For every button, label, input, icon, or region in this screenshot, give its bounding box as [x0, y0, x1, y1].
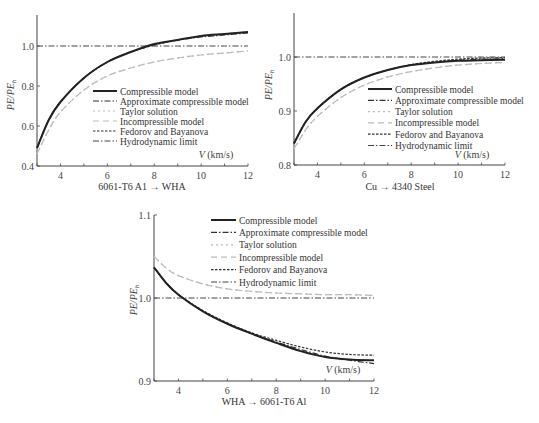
y-tick-label: 1.0	[139, 293, 152, 304]
legend-label: Fedorov and Bayanova	[120, 127, 209, 137]
x-tick-label: 12	[369, 385, 379, 396]
x-tick-label: 10	[453, 169, 463, 180]
legend: Compressible modelApproximate compressib…	[211, 216, 368, 288]
legend-label: Compressible model	[395, 85, 474, 95]
legend-label: Incompressible model	[120, 117, 205, 127]
legend: Compressible modelApproximate compressib…	[368, 85, 524, 152]
chart-panel-3: 46810120.91.01.1PE/PEhV (km/s)WHA → 6061…	[128, 210, 379, 408]
y-axis-label: PE/PEh	[5, 79, 18, 111]
y-tick-label: 0.9	[139, 376, 152, 387]
legend-label: Approximate compressible model	[120, 97, 249, 107]
legend: Compressible modelApproximate compressib…	[93, 87, 249, 147]
legend-label: Incompressible model	[395, 118, 480, 128]
y-tick-label: 0.9	[279, 106, 292, 117]
x-axis-label: V (km/s)	[199, 149, 234, 161]
legend-label: Taylor solution	[395, 107, 453, 117]
chart-panel-1: 46810120.40.60.81.0PE/PEhV (km/s)6061-T6…	[5, 15, 253, 192]
x-tick-label: 10	[320, 385, 330, 396]
legend-label: Hydrodynamic limit	[120, 137, 198, 147]
legend-label: Fedorov and Bayanova	[239, 265, 328, 275]
x-tick-label: 12	[243, 170, 253, 181]
x-tick-label: 4	[176, 385, 181, 396]
legend-label: Compressible model	[120, 87, 199, 97]
y-tick-label: 0.8	[279, 160, 292, 171]
x-tick-label: 8	[409, 169, 414, 180]
panel-caption: 6061-T6 A1 → WHA	[98, 181, 186, 192]
legend-label: Incompressible model	[239, 253, 324, 263]
legend-label: Hydrodynamic limit	[239, 278, 317, 288]
x-tick-label: 6	[225, 385, 230, 396]
panel-caption: WHA → 6061-T6 Al	[222, 396, 307, 407]
legend-label: Approximate compressible model	[395, 96, 524, 106]
x-tick-label: 6	[105, 170, 110, 181]
legend-label: Fedorov and Bayanova	[395, 130, 484, 140]
y-tick-label: 1.0	[279, 52, 292, 63]
legend-label: Taylor solution	[239, 240, 297, 250]
legend-label: Approximate compressible model	[239, 228, 368, 238]
legend-label: Hydrodynamic limit	[395, 141, 473, 151]
figure: 46810120.40.60.81.0PE/PEhV (km/s)6061-T6…	[0, 0, 539, 423]
x-axis-label: V (km/s)	[326, 364, 361, 376]
x-tick-label: 12	[500, 169, 510, 180]
panel-caption: Cu → 4340 Steel	[365, 181, 434, 192]
x-tick-label: 10	[196, 170, 206, 181]
legend-label: Compressible model	[239, 216, 318, 226]
chart-panel-2: 46810120.80.91.0PE/PEhV (km/s)Cu → 4340 …	[263, 13, 524, 192]
y-tick-label: 0.6	[22, 121, 35, 132]
y-tick-label: 1.1	[139, 210, 152, 221]
x-tick-label: 8	[152, 170, 157, 181]
legend-label: Taylor solution	[120, 107, 178, 117]
y-tick-label: 0.8	[22, 81, 35, 92]
x-tick-label: 4	[58, 170, 63, 181]
y-axis-label: PE/PEh	[263, 69, 276, 101]
y-tick-label: 0.4	[22, 161, 35, 172]
x-tick-label: 4	[315, 169, 320, 180]
x-tick-label: 6	[362, 169, 367, 180]
y-tick-label: 1.0	[22, 41, 35, 52]
x-tick-label: 8	[274, 385, 279, 396]
